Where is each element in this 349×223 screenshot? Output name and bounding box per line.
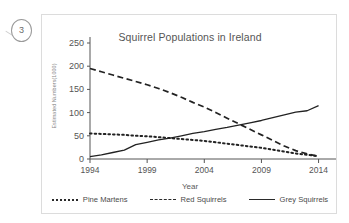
svg-text:1999: 1999	[138, 165, 157, 175]
svg-text:100: 100	[69, 108, 84, 118]
x-axis-label: Year	[42, 182, 338, 191]
chart-panel: Squirrel Populations in Ireland 05010015…	[41, 14, 337, 214]
legend-item-red-squirrels: Red Squirrels	[150, 195, 227, 204]
dashed-line-icon	[150, 197, 176, 203]
svg-text:200: 200	[69, 61, 84, 71]
svg-text:150: 150	[69, 84, 84, 94]
legend-item-pine-martens: Pine Martens	[52, 195, 128, 204]
legend-label-pine-martens: Pine Martens	[83, 195, 128, 204]
legend-label-grey-squirrels: Grey Squirrels	[280, 195, 329, 204]
svg-text:250: 250	[69, 38, 84, 48]
svg-text:50: 50	[74, 131, 84, 141]
svg-text:2004: 2004	[195, 165, 214, 175]
chart-legend: Pine Martens Red Squirrels Grey Squirrel…	[42, 195, 338, 204]
solid-line-icon	[249, 197, 275, 203]
y-axis-label: Estimated Numbers(1000)	[51, 48, 57, 144]
svg-text:1994: 1994	[81, 165, 100, 175]
legend-item-grey-squirrels: Grey Squirrels	[249, 195, 329, 204]
legend-label-red-squirrels: Red Squirrels	[181, 195, 227, 204]
svg-text:2009: 2009	[252, 165, 271, 175]
question-number-badge: 3	[11, 19, 32, 42]
svg-text:0: 0	[79, 154, 84, 164]
dotted-line-icon	[52, 197, 78, 203]
screenshot-root: 3 Squirrel Populations in Ireland 050100…	[0, 0, 349, 223]
svg-text:2014: 2014	[309, 165, 328, 175]
